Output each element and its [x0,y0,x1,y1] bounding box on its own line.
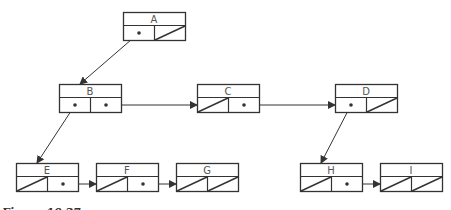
pointer-dot-icon [104,103,108,107]
node-label: D [362,86,370,97]
tree-node-i: I [381,164,443,192]
tree-node-b: B [60,85,122,113]
figure-caption: Figure 10.27 [1,206,81,210]
tree-node-d: D [336,85,398,113]
tree-node-e: E [17,164,79,192]
pointer-dot-icon [137,31,141,35]
tree-diagram: ABCDEFGHI Figure 10.27 [0,0,451,210]
tree-node-f: F [97,164,159,192]
tree-node-a: A [124,13,186,41]
pointer-dot-icon [242,103,246,107]
node-label: I [410,165,413,176]
pointer-dot-icon [345,182,349,186]
tree-node-g: G [177,164,239,192]
pointer-dot-icon [349,103,353,107]
node-label: F [124,165,130,176]
tree-node-h: H [301,164,363,192]
edge-b-e [37,105,75,163]
node-label: E [44,165,50,176]
edge-d-h [321,105,351,163]
pointer-dot-icon [141,182,145,186]
tree-node-c: C [198,85,260,113]
pointer-dot-icon [73,103,77,107]
node-label: C [225,86,232,97]
node-label: G [203,165,211,176]
pointer-dot-icon [61,182,65,186]
node-label: A [151,14,158,25]
node-label: H [327,165,335,176]
nodes-layer: ABCDEFGHI [17,13,443,192]
node-label: B [87,86,94,97]
